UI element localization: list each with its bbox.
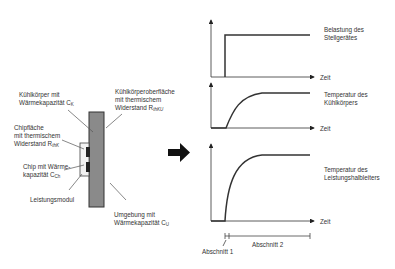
- chart-semiconductor-temp: [211, 144, 314, 221]
- heatsink-block: [89, 112, 104, 207]
- chip-interface: [86, 147, 90, 157]
- label-heatsink-surface: Kühlkörperoberfläche mit thermischem Wid…: [115, 88, 175, 114]
- section-1-label: Abschnitt 1: [202, 248, 233, 256]
- label-chip: Chip mit Wärme- kapazität CCh: [23, 163, 70, 181]
- label-heatsink: Kühlkörper mit Wärmekapazität CK: [19, 91, 74, 109]
- chart1-axis-label: Zeit: [320, 74, 331, 82]
- label-chipface: Chipfläche mit thermischem Widerstand Rt…: [14, 124, 60, 150]
- section-2-label: Abschnitt 2: [252, 241, 283, 249]
- arrow-right-icon: [168, 143, 190, 162]
- label-ambient: Umgebung mit Wärmekapazität CU: [114, 211, 169, 229]
- chart1-label: Belastung desStellgerätes: [324, 26, 364, 42]
- chart2-axis-label: Zeit: [320, 125, 331, 133]
- chart3-axis-label: Zeit: [320, 218, 331, 226]
- chart2-label: Temperatur desKühlkörpers: [324, 91, 368, 107]
- label-module: Leistungsmodul: [30, 196, 74, 204]
- chip: [86, 162, 90, 172]
- chart-load: [211, 20, 314, 77]
- chart3-label: Temperatur desLeistungshalbleiters: [324, 166, 380, 182]
- chart-heatsink-temp: [211, 83, 314, 128]
